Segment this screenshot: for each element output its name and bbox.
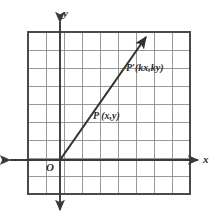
coordinate-plane-figure: O y x P (x,y) P′(kx,ky) (0, 0, 220, 217)
origin-label: O (46, 162, 54, 173)
point-p-label: P (x,y) (93, 111, 120, 121)
x-axis-label: x (203, 154, 209, 165)
point-p-prime-label: P′(kx,ky) (126, 63, 164, 73)
y-axis-label: y (63, 8, 68, 19)
diagram-canvas (0, 0, 220, 217)
